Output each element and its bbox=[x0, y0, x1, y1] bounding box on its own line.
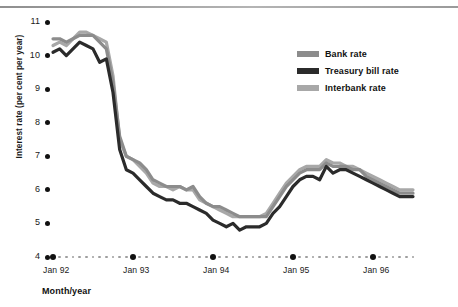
chart-legend: Bank rateTreasury bill rateInterbank rat… bbox=[297, 46, 399, 97]
legend-color-swatch bbox=[297, 68, 319, 74]
interest-rate-line-chart: Interest rate (per cent per year) Month/… bbox=[0, 0, 458, 307]
legend-item: Bank rate bbox=[297, 46, 399, 61]
legend-color-swatch bbox=[297, 85, 319, 91]
legend-item-label: Bank rate bbox=[325, 49, 367, 59]
legend-item: Interbank rate bbox=[297, 80, 399, 95]
legend-item-label: Treasury bill rate bbox=[325, 66, 399, 76]
legend-item: Treasury bill rate bbox=[297, 63, 399, 78]
legend-color-swatch bbox=[297, 51, 319, 57]
legend-item-label: Interbank rate bbox=[325, 83, 386, 93]
